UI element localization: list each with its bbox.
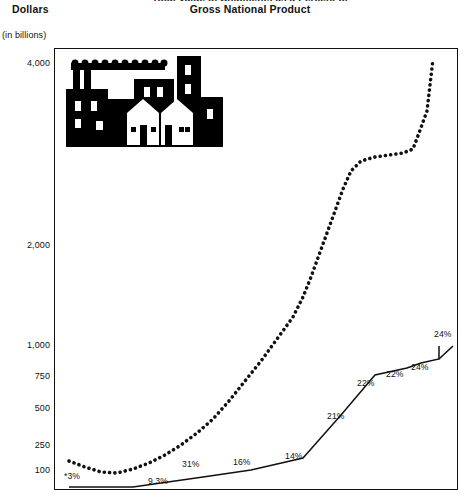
- y-tick-750: 750: [0, 372, 50, 381]
- pct-label-4: 16%: [233, 458, 251, 467]
- y-tick-500: 500: [0, 404, 50, 413]
- chart-supertitle: Total Value of Shipments as a Percent of: [120, 0, 380, 1]
- y-tick-4000: 4,000: [0, 59, 50, 68]
- y-tick-250: 250: [0, 441, 50, 450]
- series-shipments-solid-tail: [439, 346, 453, 359]
- y-tick-1000: 1,000: [0, 341, 50, 350]
- y-tick-100: 100: [0, 466, 50, 475]
- pct-label-8: 22%: [386, 370, 404, 379]
- y-tick-2000: 2,000: [0, 241, 50, 250]
- pct-label-6: 21%: [327, 412, 345, 421]
- pct-label-10: 24%: [434, 330, 452, 339]
- chart-title: Gross National Product: [120, 3, 380, 15]
- chart-lines: [55, 49, 459, 491]
- pct-label-7: 22%: [357, 379, 375, 388]
- series-gnp-dotted: [69, 59, 433, 473]
- pct-label-1: *3%: [64, 472, 80, 481]
- chart-page: Total Value of Shipments as a Percent of…: [0, 0, 465, 500]
- pct-label-5: 14%: [285, 452, 303, 461]
- pct-label-3: 31%: [182, 460, 200, 469]
- y-axis-tick-labels: 4,000 2,000 1,000 750 500 250 100: [0, 0, 50, 500]
- plot-area: [54, 48, 458, 490]
- pct-label-9: 24%: [411, 363, 429, 372]
- pct-label-2: 9.3%: [148, 477, 168, 486]
